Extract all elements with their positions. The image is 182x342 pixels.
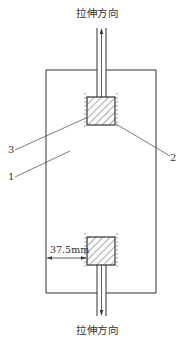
tensile-specimen-diagram	[0, 0, 182, 342]
dimension-label: 37.5mm	[50, 245, 89, 255]
callout-2: 2	[170, 153, 176, 163]
top-tension-direction-label: 拉伸方向	[76, 8, 118, 19]
lower-pull-arrow	[97, 265, 106, 316]
dimension-line	[47, 256, 86, 259]
upper-grip-block	[85, 93, 117, 129]
leader-lines	[15, 118, 170, 177]
callout-1: 1	[8, 172, 14, 182]
upper-pull-arrow	[97, 28, 106, 97]
lower-grip-block	[85, 233, 117, 269]
callout-3: 3	[8, 145, 14, 155]
bottom-tension-direction-label: 拉伸方向	[76, 325, 118, 336]
